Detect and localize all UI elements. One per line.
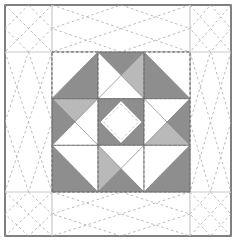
quilt-block-diagram xyxy=(0,0,237,251)
quilt-diagram-canvas xyxy=(0,0,237,251)
center-pieced-block xyxy=(52,52,190,192)
